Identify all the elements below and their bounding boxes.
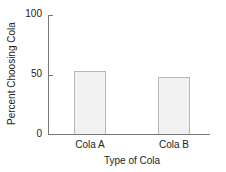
x-tick-cola-a: Cola A [65,139,115,150]
y-axis-label: Percent Choosing Cola [6,22,17,125]
bar-cola-a [74,71,106,134]
x-tick-cola-b: Cola B [149,139,199,150]
y-tick-mark-50 [48,75,53,76]
y-tick-mark-100 [48,15,53,16]
y-tick-100: 100 [22,8,42,19]
x-axis [48,134,210,135]
bar-cola-b [158,77,190,134]
x-axis-label: Type of Cola [72,155,192,166]
y-tick-50: 50 [22,68,42,79]
y-tick-0: 0 [22,128,42,139]
